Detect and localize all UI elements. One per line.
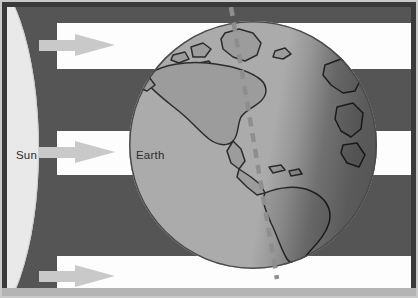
diagram-figure: Sun Earth	[0, 0, 418, 298]
diagram-scene: Sun Earth	[7, 7, 411, 291]
sunlight-arrow-middle	[39, 141, 117, 164]
frame-base-highlight	[2, 288, 416, 296]
diagram-frame: Sun Earth	[2, 2, 416, 296]
sunlight-arrow-top	[39, 34, 117, 57]
sunlight-arrow-bottom	[39, 265, 117, 288]
arrow-right-icon	[75, 34, 115, 56]
earth-limb-outline	[129, 21, 377, 269]
arrow-shaft	[39, 40, 77, 51]
arrow-right-icon	[75, 265, 115, 287]
earth-label: Earth	[136, 149, 165, 161]
arrow-shaft	[39, 147, 77, 158]
arrow-shaft	[39, 271, 77, 282]
sun-label: Sun	[16, 149, 37, 161]
arrow-right-icon	[75, 141, 115, 163]
earth-globe	[129, 21, 377, 269]
